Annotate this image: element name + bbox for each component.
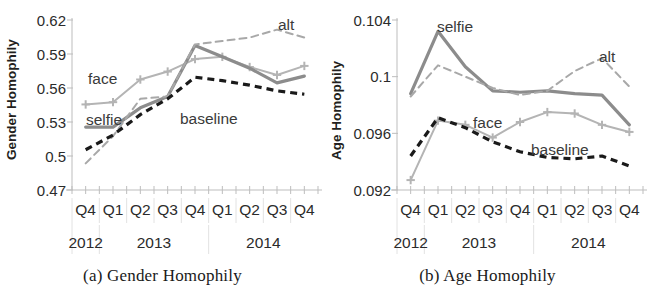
y-axis-title-text: Gender Homophily — [4, 39, 19, 160]
y-axis-title-text: Age Homophily — [329, 61, 344, 160]
series-annotation-face: face — [88, 70, 117, 87]
x-axis-year-labels-age: 201220132014 — [393, 234, 606, 251]
marker-plus-face — [570, 109, 578, 117]
series-line-selfie — [411, 31, 630, 125]
y-axis-title-age: Age Homophily — [329, 61, 344, 160]
marker-plus-face — [543, 108, 551, 116]
y-axis-title-gender: Gender Homophily — [4, 39, 19, 160]
panel-caption-b: (b) Age Homophily — [325, 266, 650, 286]
x-axis-age — [391, 186, 647, 254]
x-axis-category-labels-gender: Q4Q1Q2Q3Q4Q1Q2Q3Q4 — [75, 201, 315, 218]
x-year-label: 2014 — [571, 234, 606, 251]
series-annotation-alt: alt — [599, 48, 616, 65]
x-axis-gender — [66, 186, 322, 254]
y-tick-label: 0.62 — [37, 12, 66, 29]
series-group-gender — [81, 30, 308, 164]
x-category-label: Q1 — [103, 201, 124, 218]
y-tick-label: 0.59 — [37, 46, 66, 63]
x-category-label: Q2 — [455, 201, 476, 218]
x-category-label: Q1 — [537, 201, 558, 218]
x-category-label: Q4 — [75, 201, 96, 218]
x-category-label: Q4 — [185, 201, 206, 218]
x-year-label: 2013 — [462, 234, 496, 251]
series-annotation-baseline: baseline — [531, 141, 589, 158]
series-annotation-alt: alt — [278, 16, 295, 33]
marker-plus-face — [191, 55, 199, 63]
series-annotation-baseline: baseline — [180, 110, 238, 127]
marker-plus-face — [488, 133, 496, 141]
x-category-label: Q4 — [619, 201, 640, 218]
x-category-label: Q3 — [482, 201, 503, 218]
marker-plus-face — [163, 67, 171, 75]
panel-gender-homophily: Gender Homophily 0.470.50.530.560.590.62… — [0, 0, 325, 302]
y-tick-label: 0.096 — [353, 125, 391, 142]
y-tick-label: 0.104 — [353, 12, 391, 29]
x-category-label: Q4 — [510, 201, 531, 218]
x-category-label: Q1 — [212, 201, 233, 218]
x-category-label: Q2 — [239, 201, 260, 218]
x-year-label: 2012 — [393, 234, 427, 251]
y-axis-tick-labels-age: 0.0920.0960.10.104 — [353, 12, 398, 199]
series-annotation-selfie: selfie — [86, 111, 122, 128]
x-axis-category-labels-age: Q4Q1Q2Q3Q4Q1Q2Q3Q4 — [400, 201, 640, 218]
y-tick-label: 0.56 — [37, 80, 66, 97]
marker-plus-face — [598, 121, 606, 129]
x-category-label: Q2 — [130, 201, 151, 218]
y-tick-label: 0.1 — [370, 68, 391, 85]
y-axis-tick-labels-gender: 0.470.50.530.560.590.62 — [37, 12, 73, 199]
gender-homophily-chart: Gender Homophily 0.470.50.530.560.590.62… — [0, 0, 325, 266]
age-homophily-chart: Age Homophily 0.0920.0960.10.104 Q4Q1Q2Q… — [325, 0, 650, 266]
marker-plus-face — [516, 118, 524, 126]
y-tick-label: 0.47 — [37, 182, 66, 199]
y-tick-label: 0.5 — [45, 148, 66, 165]
series-annotations-age: selfiealtfacebaseline — [437, 18, 616, 158]
x-year-label: 2014 — [246, 234, 281, 251]
y-tick-label: 0.53 — [37, 114, 66, 131]
x-category-label: Q2 — [564, 201, 585, 218]
marker-plus-face — [273, 71, 281, 79]
x-category-label: Q4 — [400, 201, 421, 218]
x-category-label: Q1 — [428, 201, 449, 218]
x-category-label: Q3 — [267, 201, 288, 218]
panel-caption-a: (a) Gender Homophily — [0, 266, 325, 286]
marker-plus-face — [81, 100, 89, 108]
marker-plus-face — [406, 176, 414, 184]
x-category-label: Q4 — [294, 201, 315, 218]
figure-two-panel-line-charts: Gender Homophily 0.470.50.530.560.590.62… — [0, 0, 650, 302]
marker-plus-face — [625, 128, 633, 136]
x-year-label: 2012 — [68, 234, 102, 251]
x-year-label: 2013 — [137, 234, 171, 251]
marker-plus-face — [300, 62, 308, 70]
x-category-label: Q3 — [157, 201, 178, 218]
x-axis-year-labels-gender: 201220132014 — [68, 234, 281, 251]
series-annotation-selfie: selfie — [437, 18, 473, 35]
series-annotation-face: face — [473, 114, 502, 131]
x-category-label: Q3 — [592, 201, 613, 218]
panel-age-homophily: Age Homophily 0.0920.0960.10.104 Q4Q1Q2Q… — [325, 0, 650, 302]
y-tick-label: 0.092 — [353, 182, 391, 199]
